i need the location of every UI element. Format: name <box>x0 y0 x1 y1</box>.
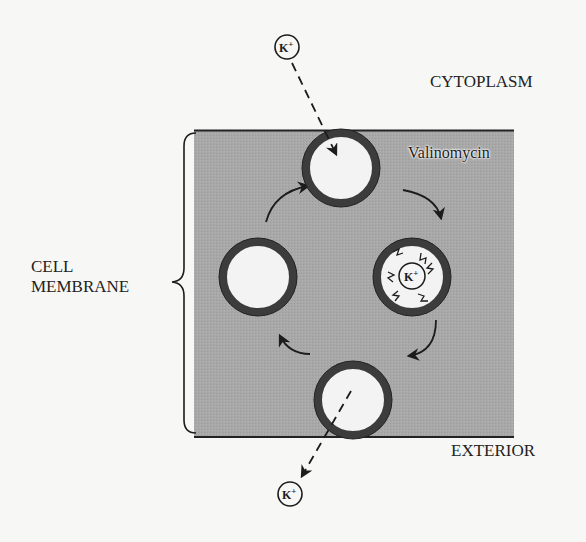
carrier-top <box>302 129 380 207</box>
valinomycin-label: Valinomycin <box>408 143 490 163</box>
carrier-right-with-ion: K+ <box>373 238 451 316</box>
carrier-left <box>219 238 297 316</box>
cell-membrane-label-line2: MEMBRANE <box>31 277 129 297</box>
cytoplasm-label: CYTOPLASM <box>430 72 533 92</box>
exterior-label: EXTERIOR <box>451 441 535 461</box>
membrane-brace <box>172 133 196 433</box>
cell-membrane-label: CELL MEMBRANE <box>31 257 129 297</box>
k-ion-cytoplasm: K+ <box>275 35 299 59</box>
k-ion-exterior: K+ <box>278 482 302 506</box>
carrier-bottom <box>314 361 392 439</box>
cell-membrane-label-line1: CELL <box>31 257 129 277</box>
